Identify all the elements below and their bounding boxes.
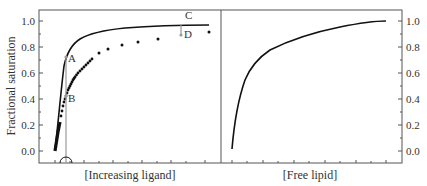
y-tick-0: 0.0	[21, 145, 35, 157]
dotted-series	[55, 31, 211, 152]
y-tick-3: 0.6	[21, 67, 35, 79]
left-y-axis	[39, 21, 43, 151]
marker-d-point	[179, 33, 182, 36]
chart-figure: 0.0 0.2 0.4 0.6 0.8 1.0 Fractional satur…	[0, 0, 427, 186]
right-y-axis	[398, 21, 402, 151]
left-x-axis-label: [Increasing ligand]	[85, 168, 176, 182]
right-y-tick-5: 1.0	[406, 15, 420, 27]
right-y-tick-4: 0.8	[406, 41, 420, 53]
annotation-a: A	[68, 52, 76, 64]
right-y-tick-labels: 0.0 0.2 0.4 0.6 0.8 1.0	[406, 15, 420, 157]
right-y-tick-0: 0.0	[406, 145, 420, 157]
solid-series	[55, 25, 209, 150]
right-y-tick-2: 0.4	[406, 93, 420, 105]
free-lipid-curve	[232, 21, 386, 149]
annotation-b: B	[68, 92, 75, 104]
right-x-axis-label: [Free lipid]	[283, 168, 337, 182]
annotation-c: C	[185, 9, 192, 21]
right-y-tick-1: 0.2	[406, 119, 420, 131]
y-tick-2: 0.4	[21, 93, 35, 105]
y-tick-5: 1.0	[21, 15, 35, 27]
left-y-tick-labels: 0.0 0.2 0.4 0.6 0.8 1.0	[21, 15, 35, 157]
y-tick-4: 0.8	[21, 41, 35, 53]
right-y-tick-3: 0.6	[406, 67, 420, 79]
annotation-d: D	[184, 28, 192, 40]
y-tick-1: 0.2	[21, 119, 35, 131]
y-axis-label: Fractional saturation	[4, 37, 18, 136]
